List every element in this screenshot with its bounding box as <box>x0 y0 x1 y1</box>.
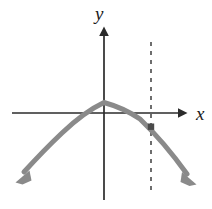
x-axis-arrowhead-icon <box>178 108 188 118</box>
curve-point-marker <box>148 124 154 130</box>
y-axis-label: y <box>95 4 103 23</box>
x-axis <box>12 108 188 118</box>
y-axis-arrowhead-icon <box>99 27 109 37</box>
x-axis-label: x <box>196 104 204 123</box>
figure-canvas <box>0 0 212 209</box>
parabola-curve <box>16 103 197 187</box>
parabola-figure: y x <box>0 0 212 209</box>
